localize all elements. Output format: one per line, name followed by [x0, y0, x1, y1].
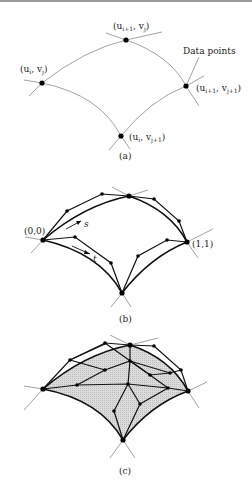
curve-top-left — [42, 40, 126, 83]
label-u-i-v-j: (ui, vj) — [20, 64, 47, 76]
control-polygon-bottom-right — [122, 240, 187, 293]
control-point — [179, 368, 183, 372]
data-point — [123, 37, 128, 42]
surface-patch — [43, 345, 188, 440]
control-point — [128, 359, 132, 363]
control-point — [100, 192, 104, 196]
arrow-head-icon — [84, 250, 90, 254]
figure-canvas: (ui, vj) (ui+1, vj) (ui+1, vj+1) (ui, vj… — [0, 0, 252, 494]
label-u-i1-v-j: (ui+1, vj) — [113, 21, 149, 33]
tangent-left — [24, 386, 43, 410]
data-point — [118, 133, 123, 138]
data-point — [183, 83, 188, 88]
control-point — [126, 382, 130, 386]
tangent-right — [188, 382, 207, 408]
control-point — [109, 261, 113, 265]
curve-bottom-left — [42, 83, 121, 136]
control-point — [65, 209, 69, 213]
data-point — [39, 80, 44, 85]
control-point — [165, 238, 169, 242]
data-points-annotation: Data points — [183, 46, 236, 56]
control-point — [73, 235, 77, 239]
panel-c: (c) — [24, 335, 207, 476]
curve-bottom-right — [121, 86, 186, 136]
corner-point — [185, 388, 190, 393]
control-polygon-top-left — [43, 194, 129, 240]
tangent-stub — [24, 80, 42, 83]
control-point — [148, 373, 152, 377]
origin-label: (0,0) — [24, 226, 45, 236]
panel-a: (ui, vj) (ui+1, vj) (ui+1, vj+1) (ui, vj… — [20, 21, 241, 161]
s-label: s — [84, 219, 89, 229]
boundary-bottom-left — [43, 240, 122, 293]
control-point — [168, 371, 172, 375]
panel-b: s t (0,0) (1,1) (b) — [24, 187, 213, 324]
label-u-i1-v-j1: (ui+1, vj+1) — [196, 83, 241, 95]
tangent-bottom — [110, 440, 135, 458]
control-point — [68, 358, 72, 362]
tangent-origin — [25, 237, 43, 253]
corner-point — [119, 290, 124, 295]
corner-point — [120, 437, 125, 442]
corner-point — [126, 193, 131, 198]
tangent-left-down — [29, 83, 42, 96]
control-point — [152, 197, 156, 201]
caption-b: (b) — [119, 314, 132, 324]
control-point — [112, 409, 116, 413]
caption-c: (c) — [119, 466, 131, 476]
t-label: t — [93, 254, 97, 264]
curve-top-right — [126, 40, 186, 86]
caption-a: (a) — [119, 151, 131, 161]
tangent-bottom-left — [109, 136, 121, 150]
corner-point — [184, 239, 189, 244]
control-polygon-top-right — [129, 196, 187, 242]
control-point — [103, 368, 107, 372]
tangent-top — [106, 32, 162, 40]
boundary-bottom-right — [122, 242, 187, 293]
control-point — [138, 402, 142, 406]
far-corner-label: (1,1) — [192, 239, 213, 249]
corner-point — [40, 237, 45, 242]
control-point — [75, 383, 79, 387]
corner-point — [40, 386, 45, 391]
boundary-top-left — [43, 196, 129, 240]
corner-point — [127, 342, 132, 347]
label-u-i-v-j1: (ui, vj+1) — [129, 132, 165, 144]
control-point — [103, 341, 107, 345]
control-point — [177, 219, 181, 223]
control-point — [136, 254, 140, 258]
control-point — [152, 344, 156, 348]
control-point — [166, 386, 170, 390]
control-polygon-bottom-left — [43, 237, 122, 293]
